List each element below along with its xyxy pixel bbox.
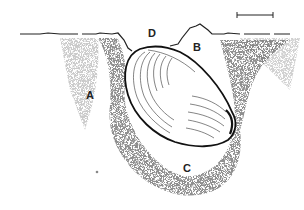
label-b: B [193,42,201,53]
label-a: A [86,90,94,101]
label-c: C [183,163,191,174]
stray-dot [96,171,99,174]
label-d: D [148,28,156,39]
clam-shell [125,47,235,147]
scale-bar [237,12,273,18]
